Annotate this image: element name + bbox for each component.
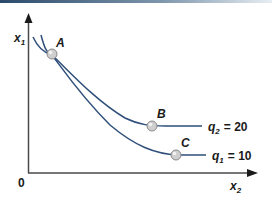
origin-label: 0 xyxy=(18,176,25,190)
point-label-b: B xyxy=(157,107,166,121)
point-c: C xyxy=(171,136,190,160)
y-axis-label: x1 xyxy=(13,31,26,47)
isoquant-diagram: x1 x2 0 q2= 20 q1= 10 A B C xyxy=(0,0,272,205)
y-axis-arrow-icon xyxy=(25,13,33,23)
curve-label-q1: q1= 10 xyxy=(212,149,252,165)
point-label-a: A xyxy=(55,36,65,50)
x-axis-arrow-icon xyxy=(247,169,258,177)
x-axis-label: x2 xyxy=(229,179,242,195)
y-axis xyxy=(25,13,33,173)
point-a: A xyxy=(47,36,65,59)
isoquant-curve-q2 xyxy=(41,35,202,126)
point-label-c: C xyxy=(181,136,190,150)
x-axis xyxy=(28,169,258,177)
curve-label-q2: q2= 20 xyxy=(208,120,248,136)
point-b: B xyxy=(147,107,166,131)
